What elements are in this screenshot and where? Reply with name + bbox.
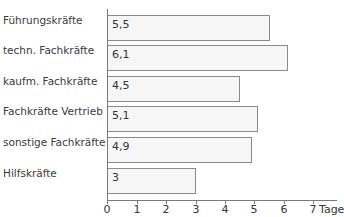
- category-label: sonstige Fachkräfte: [3, 136, 105, 148]
- category-label: Führungskräfte: [3, 14, 82, 26]
- bar-value-label: 3: [112, 171, 119, 184]
- bar-kaufm-fachkraefte: 4,5: [107, 76, 240, 102]
- bar-value-label: 5,5: [112, 18, 130, 31]
- bar-value-label: 6,1: [112, 48, 130, 61]
- x-tick-label: 1: [134, 203, 141, 216]
- x-axis-line: [107, 200, 337, 201]
- category-label: Fachkräfte Vertrieb: [3, 105, 103, 117]
- x-tick-label: 2: [163, 203, 170, 216]
- x-axis-unit-label: Tage: [319, 203, 344, 216]
- x-tick-label: 7: [310, 203, 317, 216]
- y-axis-line: [107, 9, 108, 201]
- category-label: Hilfskräfte: [3, 167, 57, 179]
- x-tick-label: 6: [281, 203, 288, 216]
- bar-fachkraefte-vertrieb: 5,1: [107, 106, 258, 132]
- x-tick-label: 4: [222, 203, 229, 216]
- x-tick-label: 0: [104, 203, 111, 216]
- bar-value-label: 4,9: [112, 140, 130, 153]
- bar-hilfskraefte: 3: [107, 168, 196, 194]
- category-label: kaufm. Fachkräfte: [3, 75, 97, 87]
- bar-value-label: 5,1: [112, 109, 130, 122]
- bar-techn-fachkraefte: 6,1: [107, 45, 288, 71]
- bar-value-label: 4,5: [112, 79, 130, 92]
- x-tick-label: 3: [193, 203, 200, 216]
- category-label: techn. Fachkräfte: [3, 44, 94, 56]
- bar-sonstige-fachkraefte: 4,9: [107, 137, 252, 163]
- x-tick-label: 5: [251, 203, 258, 216]
- bar-fuehrungskraefte: 5,5: [107, 15, 270, 41]
